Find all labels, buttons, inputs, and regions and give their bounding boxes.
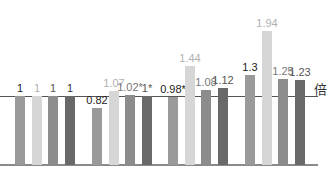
bar: [109, 91, 119, 165]
bar-value-label: 0.98*: [160, 84, 186, 95]
bar-value-label: 0.82: [86, 95, 107, 106]
bar-value-label: 1: [34, 83, 40, 94]
bar: [92, 108, 102, 165]
unit-label: 倍: [314, 83, 327, 96]
bar: [218, 88, 228, 165]
bar: [65, 96, 75, 165]
bar-value-label: 1: [17, 83, 23, 94]
bar: [201, 90, 211, 165]
bar: [142, 96, 152, 165]
bar-value-label: 1.23: [289, 67, 310, 78]
bar: [125, 95, 135, 165]
bar-chart: 倍 11110.821.071.02*1*0.98*1.441.081.121.…: [0, 0, 332, 170]
bar-value-label: 1.44: [179, 53, 200, 64]
bar: [262, 31, 272, 165]
bar: [32, 96, 42, 165]
bar-value-label: 1: [50, 83, 56, 94]
bar-value-label: 1: [67, 83, 73, 94]
bar-value-label: 1.02*: [117, 82, 143, 93]
bar-value-label: 1.3: [242, 62, 257, 73]
bar: [48, 96, 58, 165]
bar: [185, 66, 195, 165]
bar: [295, 80, 305, 165]
bar: [15, 96, 25, 165]
bar: [245, 75, 255, 165]
bar-value-label: 1*: [142, 83, 152, 94]
bar-value-label: 1.94: [256, 18, 277, 29]
bar: [168, 97, 178, 165]
bar-value-label: 1.12: [212, 75, 233, 86]
bar: [278, 79, 288, 165]
